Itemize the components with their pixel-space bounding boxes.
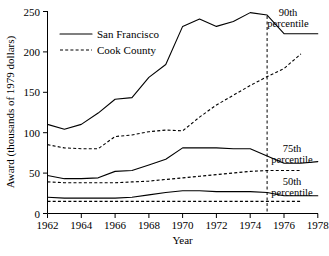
x-tick-label-1968: 1968 (138, 219, 161, 231)
x-tick-label-1974: 1974 (239, 219, 262, 231)
y-tick-label-50: 50 (29, 167, 41, 179)
line-chart: 250 200 150 100 50 0 1962 1964 1966 1968… (0, 0, 329, 256)
y-tick-label-150: 150 (24, 86, 41, 98)
annotation-75th-line2: percentile (271, 154, 313, 165)
x-tick-label-1964: 1964 (70, 219, 93, 231)
y-axis-title: Award (thousands of 1979 dollars) (4, 35, 17, 188)
chart-container: 250 200 150 100 50 0 1962 1964 1966 1968… (0, 0, 329, 256)
annotation-90th-line1: 90th (279, 7, 298, 18)
x-tick-label-1966: 1966 (104, 219, 127, 231)
annotation-75th-line1: 75th (283, 143, 302, 154)
y-tick-label-200: 200 (24, 46, 41, 58)
x-tick-label-1978: 1978 (307, 219, 329, 231)
x-tick-label-1976: 1976 (273, 219, 296, 231)
x-tick-label-1962: 1962 (37, 219, 59, 231)
x-tick-label-1972: 1972 (205, 219, 227, 231)
annotation-50th-line1: 50th (283, 176, 302, 187)
legend-label-cook-county: Cook County (97, 44, 156, 56)
y-tick-label-100: 100 (24, 127, 41, 139)
annotation-50th-line2: percentile (271, 187, 313, 198)
annotation-90th-line2: percentile (267, 18, 309, 29)
legend-label-san-francisco: San Francisco (97, 28, 160, 40)
x-tick-label-1970: 1970 (172, 219, 195, 231)
y-tick-label-250: 250 (24, 6, 41, 18)
x-axis-title: Year (172, 234, 193, 246)
